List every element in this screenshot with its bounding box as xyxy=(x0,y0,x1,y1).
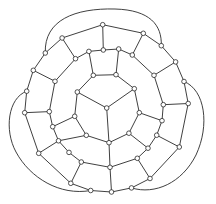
graph-node xyxy=(36,151,41,156)
graph-node xyxy=(84,133,89,138)
graph-node xyxy=(91,73,96,78)
graph-edge xyxy=(33,70,55,81)
graph-node xyxy=(87,49,92,54)
graph-node xyxy=(132,86,137,91)
graph-edge xyxy=(39,141,59,154)
graph-node xyxy=(53,79,58,84)
graph-node xyxy=(73,56,78,61)
graph-node xyxy=(67,150,72,155)
graph-node xyxy=(186,101,191,106)
graph-edge xyxy=(103,25,104,50)
graph-node xyxy=(31,68,36,73)
graph-node xyxy=(177,145,182,150)
graph-node xyxy=(154,133,159,138)
graph-node xyxy=(129,186,134,191)
graph-edge xyxy=(132,179,151,188)
graph-nodes xyxy=(22,22,190,194)
graph-edge xyxy=(33,53,45,70)
graph-edge xyxy=(176,62,184,82)
graph-node xyxy=(146,146,151,151)
graph-edge xyxy=(77,75,93,92)
graph-node xyxy=(101,48,106,53)
graph-node xyxy=(137,110,142,115)
graph-edge xyxy=(89,51,93,75)
graph-edge xyxy=(86,135,109,142)
graph-edge xyxy=(62,38,75,59)
graph-node xyxy=(127,131,132,136)
graph-node xyxy=(47,109,52,114)
graph-edge xyxy=(45,38,62,53)
graph-node xyxy=(160,118,165,123)
graph-edge xyxy=(110,158,137,167)
graph-edge xyxy=(129,113,139,134)
graph-edge xyxy=(25,112,50,113)
graph-node xyxy=(22,110,27,115)
graph-node xyxy=(152,73,157,78)
graph-edge xyxy=(49,81,55,111)
graph-edge xyxy=(137,158,150,178)
graph-node xyxy=(69,181,74,186)
graph-edge xyxy=(109,133,129,143)
graph-edge xyxy=(27,70,34,91)
graph-node xyxy=(116,47,121,52)
graph-node xyxy=(107,140,112,145)
graph-node xyxy=(104,106,109,111)
graph-edge xyxy=(25,91,27,113)
graph-node xyxy=(24,89,29,94)
graph-node xyxy=(135,156,140,161)
graph-edge xyxy=(179,104,188,148)
graph-node xyxy=(173,60,178,65)
graph-edge xyxy=(161,46,175,62)
graph-edge xyxy=(157,135,180,147)
graph-edge xyxy=(91,191,112,193)
graph-node xyxy=(108,165,113,170)
graph-edge xyxy=(132,55,154,75)
graph-edge xyxy=(25,113,39,154)
graph-edge xyxy=(75,116,87,135)
graph-node xyxy=(60,36,65,41)
graph-edge xyxy=(75,92,78,116)
graph-edge xyxy=(163,104,188,105)
graph-edge xyxy=(129,133,148,148)
graph-node xyxy=(75,90,80,95)
graph-node xyxy=(79,160,84,165)
graph-edge xyxy=(184,82,188,104)
graph-edge xyxy=(110,167,112,192)
graph-node xyxy=(141,31,146,36)
graph-node xyxy=(161,102,166,107)
graph-edge xyxy=(62,25,103,38)
graph-edge xyxy=(39,153,71,183)
graph-edge xyxy=(93,75,116,76)
graph-node xyxy=(114,72,119,77)
graph-node xyxy=(109,190,114,195)
graph-edge xyxy=(77,92,106,108)
graph-edge xyxy=(134,89,139,113)
graph-edge xyxy=(139,113,162,121)
graph-edge xyxy=(132,33,143,55)
graph-outer-arcs xyxy=(9,9,204,192)
graph-edge xyxy=(71,183,91,190)
graph-node xyxy=(43,51,48,56)
graph-edge xyxy=(107,108,109,143)
graph-edge xyxy=(109,143,110,168)
graph-edge xyxy=(116,75,134,89)
graph-node xyxy=(130,53,135,58)
graph-edge xyxy=(143,33,161,45)
graph-node xyxy=(159,43,164,48)
graph-edge xyxy=(154,62,176,75)
graph-edge xyxy=(112,188,132,192)
graph-node xyxy=(100,22,105,27)
graph-edge xyxy=(71,162,82,183)
graph-edge xyxy=(150,147,179,179)
graph-edge xyxy=(55,59,76,82)
graph-node xyxy=(50,124,55,129)
graph-edge xyxy=(53,116,75,126)
graph-node xyxy=(56,139,61,144)
graph-edge xyxy=(59,135,87,141)
graph-node xyxy=(182,79,187,84)
graph-edge xyxy=(116,49,119,75)
right-arc xyxy=(132,82,204,190)
graph-node xyxy=(88,188,93,193)
graph-node xyxy=(72,114,77,119)
graph-edge xyxy=(81,162,110,167)
